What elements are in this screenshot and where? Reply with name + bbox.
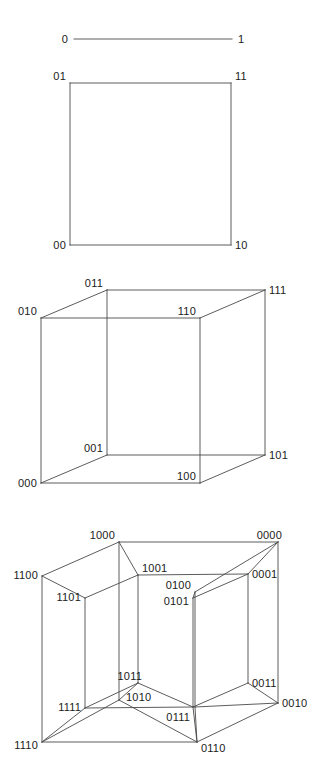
vertex-label-0011: 0011 <box>252 677 276 689</box>
graph-edge <box>42 542 119 576</box>
vertex-label-1001: 1001 <box>142 562 167 574</box>
graph-edge <box>197 703 278 742</box>
vertex-label-0101: 0101 <box>164 595 189 607</box>
vertex-label-1101: 1101 <box>57 591 81 603</box>
graph-edge <box>41 455 107 483</box>
panels-group: 0101110010011111010110001101000100100000… <box>14 33 308 754</box>
vertex-label-100: 100 <box>177 470 196 482</box>
graph-edge <box>195 703 278 707</box>
vertex-label-011: 011 <box>85 277 103 289</box>
panel-q2-square: 01110010 <box>53 70 247 251</box>
graph-edge <box>200 290 265 318</box>
graph-edge <box>85 707 193 708</box>
edges-q2-square <box>70 83 231 245</box>
vertex-label-0100: 0100 <box>166 579 191 591</box>
graph-edge <box>200 455 265 483</box>
panel-q4-tesseract: 1000000011001001000101001101010110110011… <box>14 529 308 754</box>
vertex-label-10: 10 <box>235 239 248 251</box>
panel-q1-line: 01 <box>62 33 245 45</box>
graph-edge <box>42 708 85 742</box>
graph-edge <box>41 290 107 318</box>
labels-q4-tesseract: 1000000011001001000101001101010110110011… <box>14 529 308 754</box>
vertex-label-11: 11 <box>235 70 247 82</box>
vertex-label-1110: 1110 <box>14 739 38 751</box>
graph-edge <box>85 575 138 598</box>
vertex-label-110: 110 <box>178 305 196 317</box>
vertex-label-111: 111 <box>269 284 286 296</box>
vertex-label-1011: 1011 <box>118 670 142 682</box>
graph-edge <box>193 683 248 707</box>
vertex-label-1010: 1010 <box>126 691 151 703</box>
graph-edge <box>193 574 248 598</box>
vertex-label-001: 001 <box>84 442 103 454</box>
vertex-label-101: 101 <box>269 449 288 461</box>
hypercube-figure: 0101110010011111010110001101000100100000… <box>0 0 318 769</box>
vertex-label-1000: 1000 <box>90 529 115 541</box>
graph-edge <box>138 574 248 575</box>
vertex-label-01: 01 <box>53 70 66 82</box>
vertex-label-0: 0 <box>62 33 68 45</box>
labels-q3-cube: 011111010110001101000100 <box>18 277 288 489</box>
panel-q3-cube: 011111010110001101000100 <box>18 277 288 489</box>
vertex-label-0001: 0001 <box>252 568 277 580</box>
edges-q3-cube <box>41 290 265 483</box>
vertex-label-1100: 1100 <box>14 569 38 581</box>
vertex-label-010: 010 <box>18 305 37 317</box>
vertex-label-0110: 0110 <box>201 742 225 754</box>
vertex-label-0000: 0000 <box>257 529 282 541</box>
vertex-label-00: 00 <box>53 239 66 251</box>
graph-edge <box>195 542 278 592</box>
hypercube-svg: 0101110010011111010110001101000100100000… <box>0 0 318 769</box>
vertex-label-0111: 0111 <box>166 711 190 723</box>
vertex-label-000: 000 <box>18 477 37 489</box>
graph-edge <box>119 542 138 575</box>
labels-q2-square: 01110010 <box>53 70 247 251</box>
vertex-label-1111: 1111 <box>58 701 81 713</box>
vertex-label-0010: 0010 <box>282 697 307 709</box>
vertex-label-1: 1 <box>238 33 244 45</box>
